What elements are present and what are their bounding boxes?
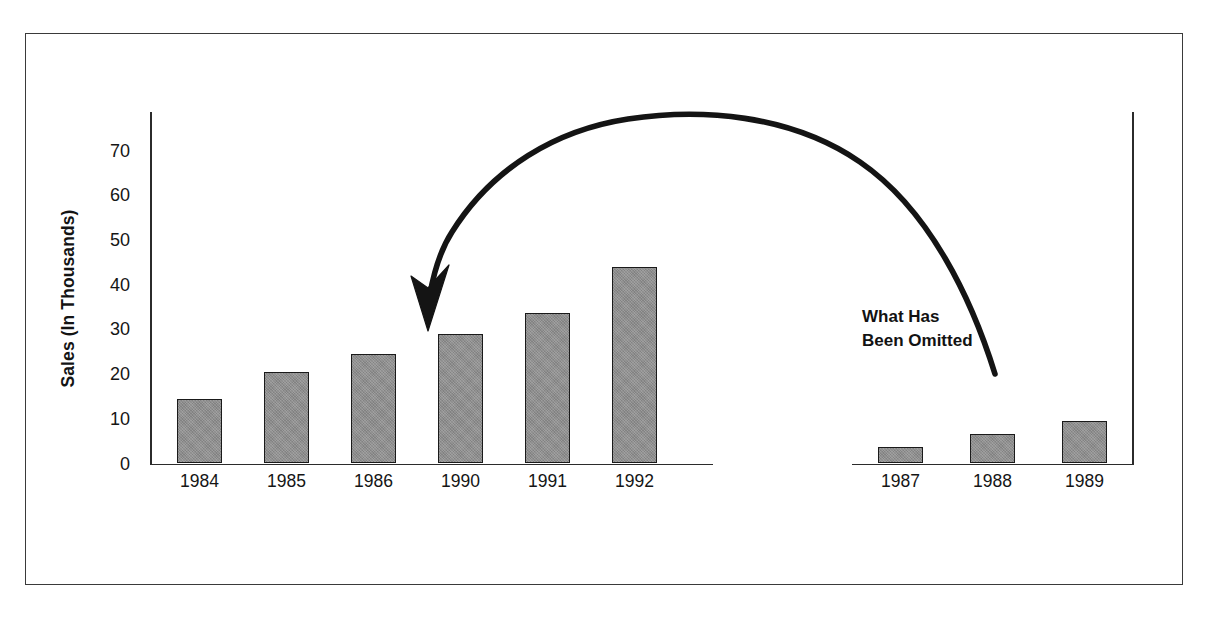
curved-arrow-icon xyxy=(0,0,1209,619)
y-tick-label: 50 xyxy=(84,231,130,249)
x-tick-label: 1992 xyxy=(590,473,680,491)
x-tick-label: 1985 xyxy=(242,473,332,491)
bar-1986 xyxy=(351,354,396,464)
bar-1985 xyxy=(264,372,309,463)
right-axis-line-inset xyxy=(1132,112,1134,465)
plot-area: Sales (In Thousands) 706050403020100 198… xyxy=(0,0,1209,619)
x-axis-line-main xyxy=(150,464,713,466)
x-tick-label: 1988 xyxy=(948,473,1038,491)
y-tick-label: 60 xyxy=(84,186,130,204)
bar-1992 xyxy=(612,267,657,464)
x-tick-label: 1987 xyxy=(856,473,946,491)
bar-1987 xyxy=(878,447,923,463)
x-tick-label: 1986 xyxy=(329,473,419,491)
x-tick-label: 1989 xyxy=(1040,473,1130,491)
chart-page: Sales (In Thousands) 706050403020100 198… xyxy=(0,0,1209,619)
bar-1984 xyxy=(177,399,222,464)
y-tick-label: 70 xyxy=(84,142,130,160)
y-tick-label: 40 xyxy=(84,276,130,294)
bar-1989 xyxy=(1062,421,1107,463)
y-tick-label: 30 xyxy=(84,320,130,338)
y-tick-labels: 706050403020100 xyxy=(84,0,130,619)
y-tick-label: 10 xyxy=(84,410,130,428)
bar-1988 xyxy=(970,434,1015,463)
bar-1991 xyxy=(525,313,570,464)
x-axis-line-inset xyxy=(852,464,1134,466)
y-tick-label: 20 xyxy=(84,365,130,383)
x-tick-label: 1991 xyxy=(503,473,593,491)
y-tick-label: 0 xyxy=(84,455,130,473)
callout-line-1: What Has xyxy=(862,305,973,329)
y-axis-title: Sales (In Thousands) xyxy=(58,169,79,429)
callout-line-2: Been Omitted xyxy=(862,329,973,353)
bar-1990 xyxy=(438,334,483,464)
x-tick-label: 1984 xyxy=(155,473,245,491)
x-tick-label: 1990 xyxy=(416,473,506,491)
y-axis-line xyxy=(150,112,152,464)
omitted-callout-text: What Has Been Omitted xyxy=(862,305,973,353)
